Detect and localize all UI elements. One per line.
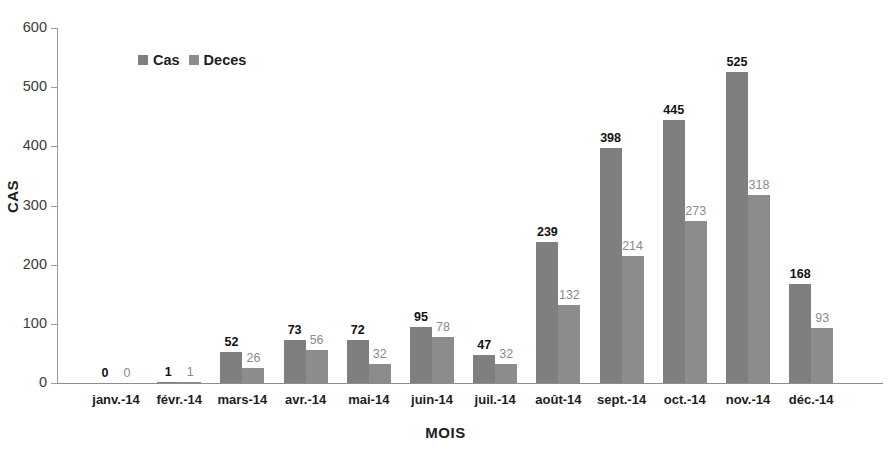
bar-cas[interactable] [663,120,685,383]
y-axis-tick-label: 500 [3,78,47,94]
bar-group: 5226 [220,28,264,383]
bar-value-label-dec: 78 [421,320,465,334]
y-axis-tick-label: 400 [3,137,47,153]
bar-group: 445273 [663,28,707,383]
bar-value-label-cas: 239 [525,225,569,239]
bar-value-label-dec: 0 [105,366,149,380]
bar-dec[interactable] [369,364,391,383]
bar-value-label-cas: 398 [589,131,633,145]
y-axis-tick-label: 200 [3,256,47,272]
bar-dec[interactable] [432,337,454,383]
y-axis-tick [51,383,57,384]
bar-value-label-dec: 273 [674,204,718,218]
y-axis-tick-label: 600 [3,19,47,35]
bar-value-label-dec: 56 [295,333,339,347]
bar-chart: CAS MOIS 0100200300400500600 Cas Deces 0… [0,0,891,451]
bar-value-label-cas: 52 [209,335,253,349]
bar-dec[interactable] [179,382,201,383]
bar-group: 398214 [600,28,644,383]
bar-dec[interactable] [306,350,328,383]
bar-group: 239132 [536,28,580,383]
x-axis-line [57,383,883,384]
bar-value-label-cas: 525 [715,55,759,69]
bar-group: 4732 [473,28,517,383]
bar-dec[interactable] [811,328,833,383]
bar-group: 7356 [284,28,328,383]
bar-group: 16893 [789,28,833,383]
bar-cas[interactable] [157,382,179,383]
x-axis-tick-label: déc.-14 [756,392,866,407]
bar-value-label-dec: 318 [737,178,781,192]
bar-cas[interactable] [410,327,432,383]
bar-group: 11 [157,28,201,383]
bar-value-label-cas: 168 [778,267,822,281]
bar-value-label-dec: 214 [611,239,655,253]
bar-value-label-cas: 445 [652,103,696,117]
bar-dec[interactable] [748,195,770,383]
bar-dec[interactable] [622,256,644,383]
bar-group: 525318 [726,28,770,383]
bar-cas[interactable] [536,242,558,383]
bar-value-label-dec: 32 [484,347,528,361]
bar-value-label-dec: 32 [358,347,402,361]
bar-group: 00 [94,28,138,383]
bar-value-label-dec: 26 [231,351,275,365]
bar-group: 9578 [410,28,454,383]
bar-group: 7232 [347,28,391,383]
bar-value-label-dec: 1 [168,365,212,379]
bar-dec[interactable] [495,364,517,383]
bar-dec[interactable] [685,221,707,383]
y-axis-tick-label: 100 [3,315,47,331]
bar-cas[interactable] [789,284,811,383]
y-axis-tick-label: 300 [3,197,47,213]
bar-dec[interactable] [558,305,580,383]
bar-dec[interactable] [242,368,264,383]
bar-cas[interactable] [726,72,748,383]
bar-value-label-dec: 132 [547,288,591,302]
bar-value-label-cas: 72 [336,323,380,337]
x-axis-title: MOIS [0,424,891,441]
y-axis-tick-label: 0 [3,374,47,390]
bar-value-label-dec: 93 [800,311,844,325]
bar-cas[interactable] [600,148,622,383]
plot-area: 0011522673567232957847322391323982144452… [57,28,883,383]
